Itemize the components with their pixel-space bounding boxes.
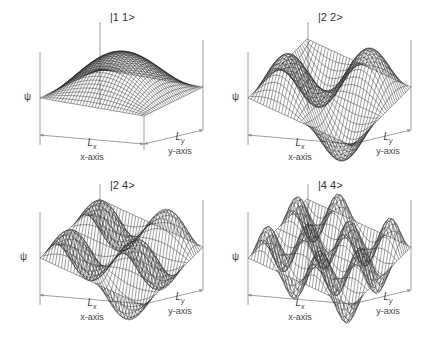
x-axis-label: Lx x-axis — [280, 138, 320, 162]
psi-axis-label: ψ — [24, 91, 31, 102]
panel-state-22: |2 2> ψ Lx x-axis Ly y-axis — [217, 0, 434, 168]
state-label: |4 4> — [318, 179, 343, 191]
y-axis-label: Ly y-axis — [160, 292, 200, 316]
state-label: |2 2> — [318, 11, 343, 23]
state-label: |2 4> — [110, 179, 135, 191]
psi-axis-label: ψ — [232, 91, 239, 102]
psi-axis-label: ψ — [20, 251, 27, 262]
panel-state-11: |1 1> ψ Lx x-axis Ly y-axis — [0, 0, 217, 168]
y-axis-label: Ly y-axis — [160, 132, 200, 156]
x-axis-label: Lx x-axis — [72, 298, 112, 322]
wireframe-mesh — [40, 51, 203, 116]
state-label: |1 1> — [110, 11, 135, 23]
psi-axis-label: ψ — [232, 251, 239, 262]
y-axis-label: Ly y-axis — [368, 132, 408, 156]
x-axis-label: Lx x-axis — [280, 298, 320, 322]
panel-state-44: |4 4> ψ Lx x-axis Ly y-axis — [217, 170, 434, 337]
y-axis-label: Ly y-axis — [368, 292, 408, 316]
panel-state-24: |2 4> ψ Lx x-axis Ly y-axis — [0, 170, 217, 337]
x-axis-label: Lx x-axis — [72, 138, 112, 162]
